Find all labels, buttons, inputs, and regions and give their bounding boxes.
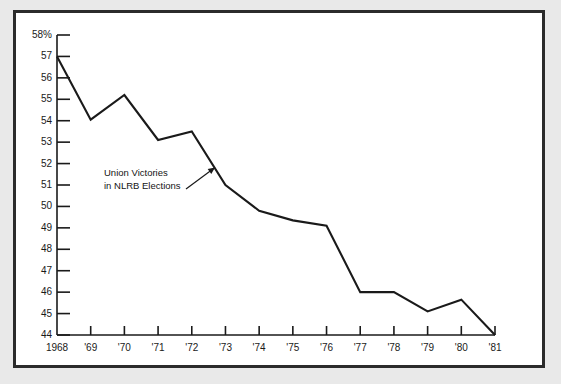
chart-figure: 58%5756555453525150494847464544 1968'69'… — [0, 0, 561, 384]
x-axis-tick-label: '73 — [219, 343, 232, 353]
x-axis-tick-label: '81 — [488, 343, 501, 353]
x-axis-tick-label: '71 — [152, 343, 165, 353]
y-axis — [57, 35, 70, 335]
y-axis-tick-label: 57 — [41, 51, 52, 61]
y-axis-tick-label: 53 — [41, 137, 52, 147]
annotation-line-2: in NLRB Elections — [104, 179, 181, 192]
series-annotation-label: Union Victories in NLRB Elections — [104, 166, 181, 192]
x-axis-tick-label: 1968 — [46, 343, 68, 353]
x-axis-tick-label: '76 — [320, 343, 333, 353]
y-axis-tick-label: 58% — [32, 30, 52, 40]
x-axis-tick-label: '78 — [387, 343, 400, 353]
x-axis-tick-label: '80 — [455, 343, 468, 353]
y-axis-tick-label: 52 — [41, 159, 52, 169]
data-series-union-victories — [57, 56, 495, 335]
x-axis-tick-label: '70 — [118, 343, 131, 353]
y-axis-tick-label: 50 — [41, 201, 52, 211]
y-axis-tick-label: 49 — [41, 223, 52, 233]
x-axis-tick-label: '72 — [185, 343, 198, 353]
x-axis — [57, 326, 495, 335]
y-axis-tick-label: 48 — [41, 244, 52, 254]
annotation-line-1: Union Victories — [104, 166, 181, 179]
y-axis-tick-label: 56 — [41, 73, 52, 83]
y-axis-tick-label: 45 — [41, 309, 52, 319]
y-axis-tick-label: 47 — [41, 266, 52, 276]
y-axis-tick-label: 55 — [41, 94, 52, 104]
line-chart-plot — [0, 0, 561, 384]
y-axis-tick-label: 54 — [41, 116, 52, 126]
y-axis-tick-label: 51 — [41, 180, 52, 190]
y-axis-tick-label: 44 — [41, 330, 52, 340]
annotation-arrow-icon — [186, 168, 215, 190]
x-axis-tick-label: '79 — [421, 343, 434, 353]
x-axis-tick-label: '77 — [354, 343, 367, 353]
y-axis-tick-label: 46 — [41, 287, 52, 297]
x-axis-tick-label: '74 — [253, 343, 266, 353]
x-axis-tick-label: '75 — [286, 343, 299, 353]
x-axis-tick-label: '69 — [84, 343, 97, 353]
